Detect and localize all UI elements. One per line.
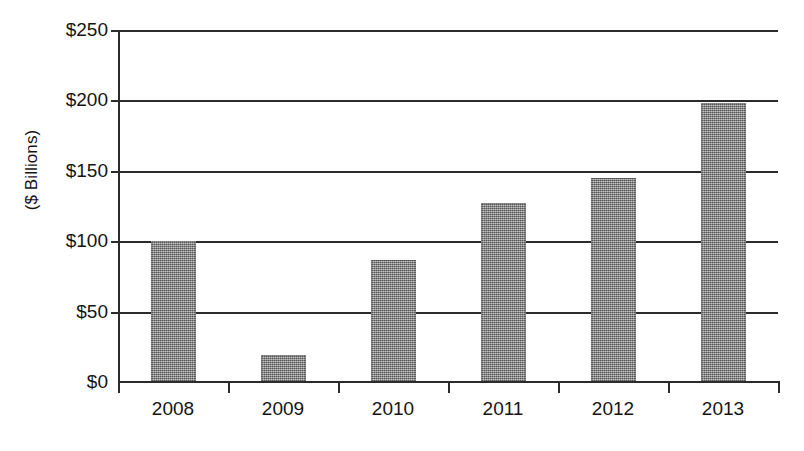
figure-caption-clipped	[0, 443, 804, 451]
x-axis-tick-mark	[448, 383, 450, 393]
x-axis-tick-mark	[228, 383, 230, 393]
x-axis-tick-mark	[338, 383, 340, 393]
x-axis-tick-mark	[118, 383, 120, 393]
bar	[591, 178, 636, 382]
y-axis-tick-label: $0	[28, 372, 108, 391]
y-axis-tick-mark	[111, 312, 118, 314]
y-axis-tick-mark	[111, 100, 118, 102]
y-axis-tick-label: $150	[28, 161, 108, 180]
bars-group	[118, 30, 778, 382]
y-axis-tick-mark	[111, 171, 118, 173]
x-axis-tick-label: 2012	[558, 398, 668, 420]
bar	[701, 103, 746, 382]
y-axis-tick-label: $50	[28, 302, 108, 321]
x-axis-tick-label: 2013	[668, 398, 778, 420]
bar	[261, 355, 306, 382]
plot-area	[118, 30, 778, 382]
bar	[481, 203, 526, 382]
x-axis-tick-mark	[668, 383, 670, 393]
x-axis-tick-label: 2011	[448, 398, 558, 420]
bar	[151, 241, 196, 382]
bar	[371, 260, 416, 382]
y-axis-tick-label: $100	[28, 231, 108, 250]
y-axis-tick-mark	[111, 241, 118, 243]
x-axis-tick-mark	[558, 383, 560, 393]
bar-chart-figure: ($ Billions) $250$200$150$100$50$0 20082…	[0, 0, 804, 451]
x-axis-tick-label: 2009	[228, 398, 338, 420]
y-axis-tick-label: $200	[28, 90, 108, 109]
x-axis-tick-mark	[778, 383, 780, 393]
x-axis-tick-label: 2010	[338, 398, 448, 420]
y-axis-tick-label: $250	[28, 20, 108, 39]
y-axis-tick-labels: $250$200$150$100$50$0	[28, 0, 108, 451]
x-axis-tick-label: 2008	[118, 398, 228, 420]
y-axis-tick-mark	[111, 30, 118, 32]
